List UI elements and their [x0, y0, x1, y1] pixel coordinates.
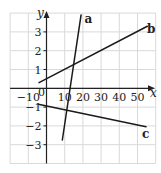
x-tick-label: 50 — [131, 91, 145, 104]
y-tick-label: 3 — [35, 26, 42, 39]
line-chart: x y −1001020304050−3−2−1123 abc — [0, 0, 161, 173]
y-tick-label: −3 — [25, 139, 41, 152]
line-label-c: c — [142, 127, 149, 141]
y-tick-label: −2 — [25, 120, 41, 133]
y-tick-label: 1 — [35, 64, 42, 77]
line-c — [38, 104, 146, 126]
x-axis-label: x — [150, 86, 157, 100]
y-axis-arrow-icon — [44, 11, 50, 18]
series-lines — [38, 15, 147, 140]
line-label-b: b — [147, 22, 155, 36]
line-label-a: a — [84, 12, 92, 26]
y-axis-label: y — [36, 6, 44, 20]
line-b — [39, 26, 147, 82]
x-tick-label: 30 — [94, 91, 108, 104]
x-tick-label: 20 — [76, 91, 90, 104]
y-tick-label: 2 — [35, 45, 42, 58]
y-tick-label: −1 — [25, 101, 41, 114]
x-tick-label: 0 — [38, 86, 45, 99]
x-tick-label: 40 — [112, 91, 126, 104]
